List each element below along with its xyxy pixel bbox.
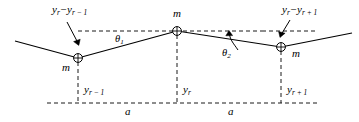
- label-displacement-right-sub1: r: [287, 8, 290, 17]
- label-displacement-right-sub2: r + 1: [302, 8, 317, 17]
- label-ordinate-right-subscript: r + 1: [292, 88, 307, 97]
- label-displacement-right: yr−yr + 1: [282, 4, 317, 15]
- arrowhead-icon: [279, 32, 286, 38]
- label-theta-one-subscript: 1: [120, 38, 124, 46]
- mass-node-r: [173, 27, 182, 36]
- label-displacement-left-operator: −: [60, 3, 67, 15]
- label-ordinate-left-subscript: r − 1: [89, 88, 104, 97]
- label-ordinate-right: yr + 1: [287, 84, 307, 95]
- physics-diagram-figure: yr−yr − 1 yr−yr + 1 m m m θ1 θ2 yr − 1 y…: [0, 0, 359, 122]
- mass-node-r-minus-1: [74, 54, 83, 63]
- label-displacement-left: yr−yr − 1: [52, 4, 87, 15]
- leader-arrow-displacement-right: [279, 20, 290, 38]
- label-spacing-right: a: [228, 106, 234, 117]
- string-segment-left: [78, 31, 177, 58]
- label-spacing-left: a: [125, 106, 131, 117]
- label-ordinate-center-subscript: r: [188, 88, 191, 97]
- label-theta-one: θ1: [115, 34, 124, 45]
- leader-arrow-displacement-left: [67, 22, 80, 45]
- label-theta-two-subscript: 2: [227, 52, 231, 60]
- label-ordinate-left: yr − 1: [84, 84, 104, 95]
- label-mass-left: m: [62, 62, 70, 73]
- label-mass-right: m: [292, 48, 300, 59]
- string-segment-far-left: [15, 41, 78, 58]
- label-displacement-left-sub2: r − 1: [72, 8, 87, 17]
- label-displacement-left-sub1: r: [57, 8, 60, 17]
- label-ordinate-center: yr: [183, 84, 191, 95]
- label-theta-two: θ2: [222, 48, 231, 59]
- label-mass-center: m: [173, 8, 181, 19]
- label-displacement-right-operator: −: [290, 3, 297, 15]
- string-segment-far-right: [281, 33, 352, 47]
- mass-node-r-plus-1: [277, 43, 286, 52]
